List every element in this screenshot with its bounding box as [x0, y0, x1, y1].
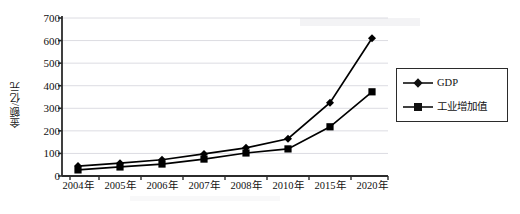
legend: GDP 工业增加值: [396, 68, 508, 122]
x-tick-label: 2020年: [357, 181, 388, 192]
gridlines: [62, 18, 388, 176]
x-tick-label: 2010年: [273, 181, 304, 192]
data-point-marker: [326, 123, 333, 130]
data-series-layer: [74, 34, 376, 173]
x-axis-tick-labels: 2004年2005年2006年2007年2008年2010年2015年2020年: [0, 181, 520, 201]
data-point-marker: [74, 166, 81, 173]
legend-label: GDP: [437, 78, 458, 89]
data-point-marker: [368, 88, 375, 95]
data-point-marker: [116, 163, 123, 170]
x-tick-label: 2004年: [63, 181, 94, 192]
legend-item-gdp: GDP: [403, 75, 458, 91]
x-tick-label: 2007年: [189, 181, 220, 192]
x-tick-label: 2015年: [315, 181, 346, 192]
square-marker-icon: [403, 100, 433, 114]
x-tick-label: 2005年: [105, 181, 136, 192]
data-point-marker: [200, 155, 207, 162]
diamond-marker-icon: [403, 76, 433, 90]
data-point-marker: [242, 149, 249, 156]
data-point-marker: [284, 145, 291, 152]
legend-label: 工业增加值: [437, 102, 487, 113]
axis-lines: [62, 16, 388, 176]
line-chart: 金额/亿元 700 600 500 400 300 200 100 0 2004…: [0, 0, 520, 214]
legend-item-industrial-added-value: 工业增加值: [403, 99, 487, 115]
data-point-marker: [158, 160, 165, 167]
x-tick-label: 2008年: [231, 181, 262, 192]
x-tick-label: 2006年: [147, 181, 178, 192]
